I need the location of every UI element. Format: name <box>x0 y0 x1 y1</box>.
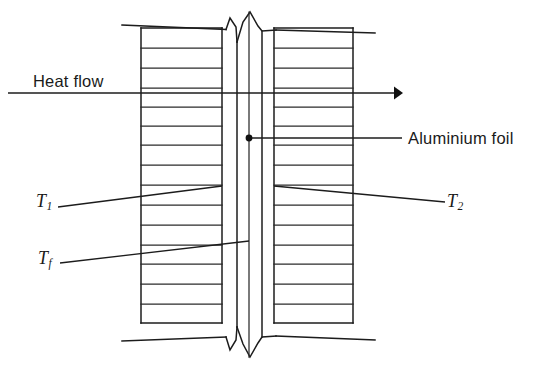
diagram-canvas <box>0 0 549 371</box>
aluminium-foil-label: Aluminium foil <box>408 130 514 147</box>
t2-leader-line <box>274 186 445 202</box>
tf-symbol: T <box>38 248 48 268</box>
t1-label: T1 <box>36 192 52 213</box>
left-block-layer-lines <box>141 48 222 304</box>
heat-flow-label: Heat flow <box>33 73 104 90</box>
bottom-outer-sheet-right <box>276 336 375 340</box>
t1-leader-line <box>58 186 222 207</box>
t1-symbol: T <box>36 191 46 211</box>
tf-subscript: f <box>48 257 52 269</box>
thermal-insulation-diagram: Heat flow Aluminium foil T1 T2 Tf <box>0 0 549 371</box>
foil-wave-right-top <box>237 12 276 42</box>
t2-label: T2 <box>447 192 463 213</box>
foil-wave-left-bottom <box>226 327 237 350</box>
top-outer-sheet-right <box>276 30 375 33</box>
foil-wave-left-top <box>226 18 237 42</box>
t1-subscript: 1 <box>46 200 52 212</box>
arrow-right-icon <box>394 87 403 100</box>
tf-label: Tf <box>38 249 52 270</box>
t2-symbol: T <box>447 191 457 211</box>
dot-marker-icon <box>246 135 253 142</box>
tf-leader-line <box>60 241 249 263</box>
foil-wave-right-bottom <box>237 327 276 357</box>
bottom-outer-sheet-left <box>122 337 226 341</box>
right-block-layer-lines <box>274 48 353 304</box>
t2-subscript: 2 <box>457 200 463 212</box>
